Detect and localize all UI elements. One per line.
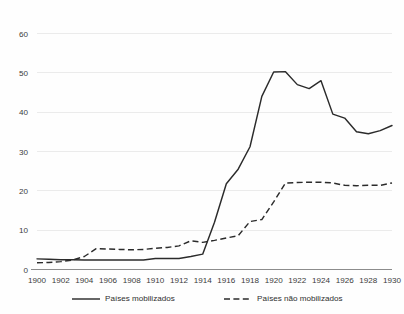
x-tick-label-1900: 1900 (28, 276, 47, 285)
gridlines (37, 34, 392, 231)
x-tick-label-1906: 1906 (99, 276, 118, 285)
x-tick-label-1916: 1916 (217, 276, 236, 285)
x-tick-label-1920: 1920 (265, 276, 284, 285)
y-tick-label-40: 40 (19, 108, 29, 117)
y-axis-tick-labels: 0102030405060 (19, 30, 29, 275)
x-tick-label-1926: 1926 (336, 276, 355, 285)
x-tick-label-1918: 1918 (241, 276, 260, 285)
x-tick-label-1914: 1914 (194, 276, 213, 285)
y-tick-label-0: 0 (23, 266, 28, 275)
y-tick-label-30: 30 (19, 148, 29, 157)
legend-label-1: Países não mobilizados (257, 294, 342, 303)
x-tick-label-1910: 1910 (146, 276, 165, 285)
data-series (37, 72, 392, 263)
x-tick-label-1930: 1930 (383, 276, 402, 285)
x-tick-label-1908: 1908 (123, 276, 142, 285)
y-tick-label-50: 50 (19, 69, 29, 78)
x-axis-tick-labels: 1900190219041906190819101912191419161918… (28, 276, 402, 285)
y-tick-label-60: 60 (19, 30, 29, 39)
series-line-0 (37, 72, 392, 260)
legend-item-0[interactable]: Países mobilizados (72, 294, 175, 303)
line-chart: 0102030405060 19001902190419061908191019… (0, 0, 404, 314)
x-tick-label-1912: 1912 (170, 276, 189, 285)
legend-item-1[interactable]: Países não mobilizados (224, 294, 342, 303)
chart-plot-area: 0102030405060 19001902190419061908191019… (0, 0, 404, 314)
legend-label-0: Países mobilizados (105, 294, 175, 303)
y-tick-label-20: 20 (19, 187, 29, 196)
x-tick-label-1924: 1924 (312, 276, 331, 285)
x-tick-label-1922: 1922 (288, 276, 307, 285)
y-tick-label-10: 10 (19, 226, 29, 235)
x-tick-label-1904: 1904 (75, 276, 94, 285)
x-tick-label-1902: 1902 (52, 276, 71, 285)
chart-legend[interactable]: Países mobilizadosPaíses não mobilizados (72, 294, 342, 303)
x-tick-label-1928: 1928 (359, 276, 378, 285)
